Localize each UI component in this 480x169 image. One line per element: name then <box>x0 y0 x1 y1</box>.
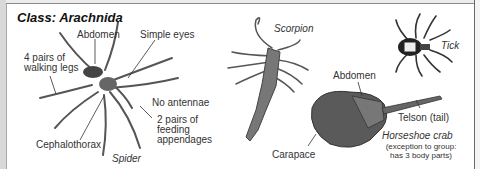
crab-name-label: Horseshoe crab <box>382 130 453 141</box>
crab-carapace-label: Carapace <box>272 149 315 160</box>
spider-walking-legs-label-2: walking legs <box>24 62 78 73</box>
spider-abdomen-shape <box>83 66 103 78</box>
diagram-title: Class: Arachnida <box>17 10 123 25</box>
scorpion-body-shape <box>246 48 280 141</box>
crab-note-line-2: has 3 body parts) <box>383 151 459 160</box>
tick-name-label: Tick <box>441 40 459 51</box>
spider-abdomen-label: Abdomen <box>77 29 120 40</box>
crab-telson-label: Telson (tail) <box>398 112 449 123</box>
crab-abdomen-label: Abdomen <box>333 70 376 81</box>
crab-note-line-1: (exception to group: <box>383 142 459 151</box>
spider-cephalothorax-shape <box>99 77 117 91</box>
spider-name-label: Spider <box>112 153 141 164</box>
scorpion-name-label: Scorpion <box>274 23 313 34</box>
spider-cephalothorax-label: Cephalothorax <box>36 139 101 150</box>
spider-simple-eyes-label: Simple eyes <box>140 29 194 40</box>
spider-feeding-label-3: appendages <box>157 134 212 145</box>
spider-no-antennae-label: No antennae <box>152 97 209 108</box>
